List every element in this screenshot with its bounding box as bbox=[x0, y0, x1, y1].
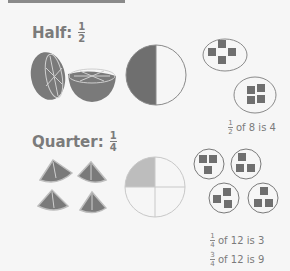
quarter-fraction: 1 4 bbox=[110, 131, 117, 152]
half-fraction: 1 2 bbox=[78, 22, 85, 43]
quarter-caption-2: 34 of 12 is 9 bbox=[210, 252, 264, 267]
quarter-title: Quarter: bbox=[32, 133, 104, 151]
half-heading: Half: 1 2 bbox=[32, 22, 85, 43]
half-title: Half: bbox=[32, 24, 72, 42]
half-caption: 12 of 8 is 4 bbox=[228, 120, 276, 135]
half-circle-diagram bbox=[125, 44, 187, 106]
half-grouping-diagram bbox=[195, 38, 285, 120]
orange-quarters-image bbox=[36, 158, 116, 216]
quarter-caption-1: 14 of 12 is 3 bbox=[210, 233, 264, 248]
quarter-heading: Quarter: 1 4 bbox=[32, 131, 117, 152]
quarter-circle-diagram bbox=[124, 156, 186, 218]
quarter-grouping-diagram bbox=[186, 147, 290, 231]
orange-halves-image bbox=[28, 48, 120, 106]
header-bar bbox=[8, 0, 125, 3]
